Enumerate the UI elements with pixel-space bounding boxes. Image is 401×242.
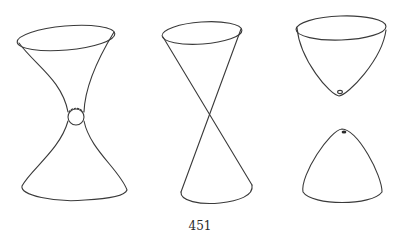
surfaces-drawing [0,0,401,242]
page-number: 451 [180,219,220,233]
hyperboloid-one-sheet [16,22,127,201]
hyperboloid-two-sheets [296,14,387,202]
figure-quadric-surfaces: 451 [0,0,401,242]
double-cone [161,19,252,203]
vertex-dot [342,130,347,133]
